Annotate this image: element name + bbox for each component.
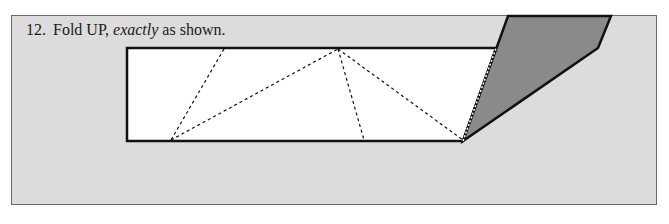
paper-strip	[127, 48, 496, 141]
folded-flap	[463, 16, 611, 141]
fold-diagram	[0, 0, 669, 224]
